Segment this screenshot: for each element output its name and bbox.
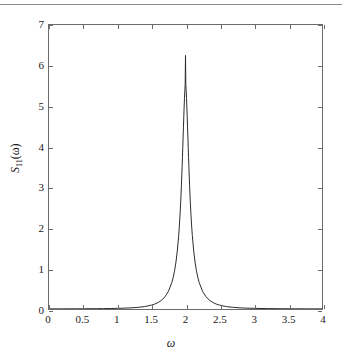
y-tick-mark bbox=[49, 188, 53, 189]
y-tick-mark bbox=[318, 107, 322, 108]
y-tick-mark bbox=[318, 25, 322, 26]
y-axis-title: S11(ω) bbox=[8, 118, 24, 198]
page-divider-rule bbox=[0, 4, 342, 5]
x-tick-mark bbox=[187, 25, 188, 29]
x-tick-mark bbox=[118, 25, 119, 29]
series-line-S11 bbox=[49, 55, 322, 308]
y-tick-label: 0 bbox=[34, 305, 44, 316]
y-tick-mark bbox=[49, 148, 53, 149]
plot-area bbox=[48, 24, 323, 310]
y-tick-mark bbox=[318, 188, 322, 189]
y-tick-mark bbox=[318, 148, 322, 149]
x-tick-label: 1 bbox=[114, 313, 120, 325]
x-tick-mark bbox=[83, 305, 84, 309]
y-tick-mark bbox=[318, 270, 322, 271]
x-tick-label: 0.5 bbox=[76, 313, 90, 325]
y-tick-mark bbox=[49, 25, 53, 26]
y-tick-label: 3 bbox=[34, 182, 44, 193]
x-tick-label: 0 bbox=[45, 313, 51, 325]
y-tick-label: 2 bbox=[34, 223, 44, 234]
y-tick-label: 1 bbox=[34, 264, 44, 275]
y-tick-mark bbox=[49, 66, 53, 67]
x-tick-mark bbox=[255, 25, 256, 29]
x-tick-mark bbox=[221, 305, 222, 309]
x-tick-mark bbox=[290, 25, 291, 29]
y-tick-mark bbox=[49, 229, 53, 230]
y-tick-mark bbox=[49, 107, 53, 108]
y-tick-mark bbox=[318, 66, 322, 67]
x-tick-label: 1.5 bbox=[144, 313, 158, 325]
y-tick-mark bbox=[318, 311, 322, 312]
y-tick-label: 7 bbox=[34, 19, 44, 30]
x-tick-mark bbox=[152, 25, 153, 29]
x-tick-mark bbox=[49, 305, 50, 309]
y-tick-label: 5 bbox=[34, 100, 44, 111]
x-tick-mark bbox=[221, 25, 222, 29]
x-tick-mark bbox=[255, 305, 256, 309]
x-tick-mark bbox=[324, 305, 325, 309]
x-tick-mark bbox=[324, 25, 325, 29]
x-tick-mark bbox=[152, 305, 153, 309]
figure-canvas: 00.511.522.533.54 01234567 ω S11(ω) bbox=[0, 0, 342, 362]
x-tick-label: 3.5 bbox=[282, 313, 296, 325]
y-tick-mark bbox=[49, 270, 53, 271]
x-tick-label: 4 bbox=[320, 313, 326, 325]
y-tick-mark bbox=[318, 229, 322, 230]
x-tick-mark bbox=[187, 305, 188, 309]
x-tick-label: 2 bbox=[183, 313, 189, 325]
y-tick-label: 6 bbox=[34, 59, 44, 70]
spectrum-curve-svg bbox=[49, 25, 322, 309]
x-tick-mark bbox=[290, 305, 291, 309]
x-tick-mark bbox=[118, 305, 119, 309]
x-tick-mark bbox=[83, 25, 84, 29]
y-tick-label: 4 bbox=[34, 141, 44, 152]
x-axis-title: ω bbox=[0, 336, 342, 351]
y-tick-mark bbox=[49, 311, 53, 312]
x-tick-label: 2.5 bbox=[213, 313, 227, 325]
x-tick-label: 3 bbox=[252, 313, 258, 325]
